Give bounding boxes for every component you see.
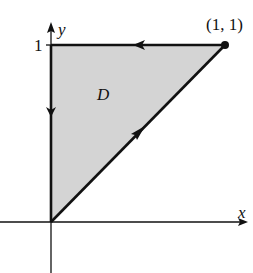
y-axis-label: y (56, 20, 66, 39)
diagram: y x 1 D (1, 1) (0, 0, 253, 273)
y-tick-label: 1 (34, 36, 43, 55)
point-label: (1, 1) (206, 15, 243, 34)
x-axis-label: x (237, 203, 246, 222)
point-1-1 (221, 41, 229, 49)
region-label: D (96, 85, 110, 104)
x-axis (0, 218, 248, 226)
